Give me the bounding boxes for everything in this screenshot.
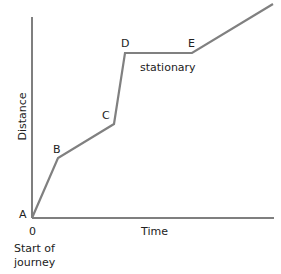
x-axis-label: Time: [141, 226, 168, 238]
point-label-c: C: [102, 110, 110, 122]
stationary-annotation: stationary: [140, 62, 196, 74]
journey-line: [32, 4, 273, 218]
start-annotation-line1: Start of: [14, 243, 55, 255]
start-annotation-line2: journey: [14, 257, 55, 269]
point-label-a: A: [19, 209, 27, 221]
point-label-e: E: [188, 38, 195, 50]
y-axis-label: Distance: [16, 87, 29, 147]
point-label-d: D: [121, 38, 129, 50]
point-label-b: B: [53, 144, 61, 156]
origin-tick-label: 0: [29, 226, 36, 238]
